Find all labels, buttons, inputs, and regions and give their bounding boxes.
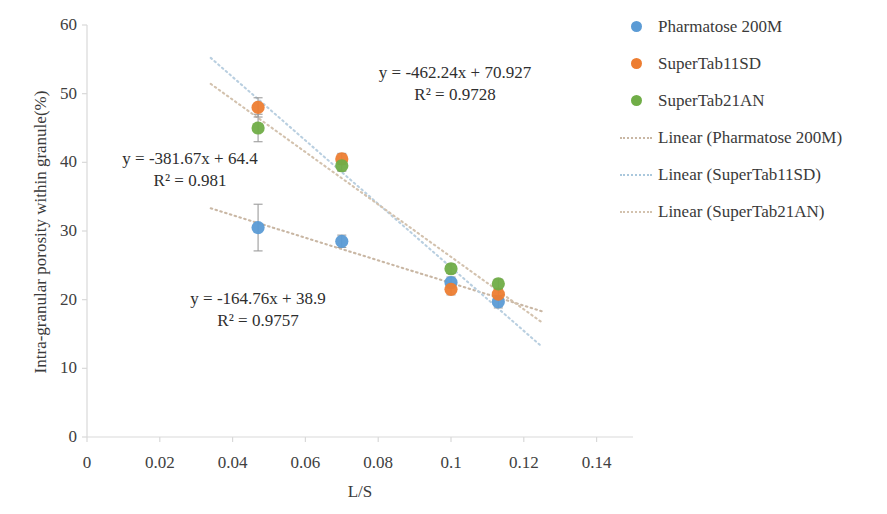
legend-key (618, 137, 654, 139)
eq-pharmatose200m: y = -164.76x + 38.9R² = 0.9757 (190, 288, 325, 333)
data-point-supertab21an[interactable] (335, 159, 348, 172)
legend-marker-icon (631, 21, 642, 32)
data-point-supertab11sd[interactable] (444, 283, 457, 296)
y-axis-tick-label: 0 (19, 427, 77, 447)
legend-item-label: Pharmatose 200M (654, 17, 782, 37)
y-axis-tick-label: 60 (19, 15, 77, 35)
data-point-supertab21an[interactable] (492, 277, 505, 290)
eq-supertab11sd-equation: y = -462.24x + 70.927 (379, 62, 531, 84)
chart-legend: Pharmatose 200MSuperTab11SDSuperTab21ANL… (618, 8, 883, 230)
legend-marker-icon (631, 58, 642, 69)
x-axis-tick-label: 0.14 (582, 453, 612, 473)
x-axis-tick-label: 0.06 (291, 453, 321, 473)
legend-key (618, 95, 654, 106)
data-point-pharmatose-200m[interactable] (335, 235, 348, 248)
legend-key (618, 58, 654, 69)
y-axis-tick-label: 40 (19, 152, 77, 172)
legend-item-label: SuperTab21AN (654, 91, 764, 111)
legend-item[interactable]: Linear (Pharmatose 200M) (618, 119, 883, 156)
legend-key (618, 21, 654, 32)
y-axis-tick-label: 50 (19, 84, 77, 104)
data-point-supertab21an[interactable] (444, 262, 457, 275)
x-axis-title: L/S (87, 482, 633, 502)
x-axis-tick-label: 0.08 (363, 453, 393, 473)
eq-supertab11sd-r2: R² = 0.9728 (379, 84, 531, 106)
legend-key (618, 174, 654, 176)
y-axis-tick-label: 10 (19, 358, 77, 378)
data-point-supertab21an[interactable] (251, 121, 264, 134)
legend-item-label: Linear (SuperTab11SD) (654, 165, 821, 185)
eq-pharmatose200m-equation: y = -164.76x + 38.9 (190, 288, 325, 310)
legend-item[interactable]: SuperTab11SD (618, 45, 883, 82)
x-axis-tick-label: 0.12 (509, 453, 539, 473)
legend-dashed-line-icon (620, 137, 652, 139)
eq-supertab21an: y = -381.67x + 64.4R² = 0.981 (122, 148, 257, 193)
eq-supertab21an-r2: R² = 0.981 (122, 170, 257, 192)
legend-item[interactable]: Linear (SuperTab21AN) (618, 193, 883, 230)
x-axis-tick-label: 0.1 (440, 453, 461, 473)
x-axis-tick-label: 0.04 (218, 453, 248, 473)
eq-supertab11sd: y = -462.24x + 70.927R² = 0.9728 (379, 62, 531, 107)
legend-item[interactable]: Pharmatose 200M (618, 8, 883, 45)
legend-dashed-line-icon (620, 174, 652, 176)
legend-item[interactable]: Linear (SuperTab11SD) (618, 156, 883, 193)
legend-item-label: Linear (Pharmatose 200M) (654, 128, 842, 148)
x-axis-tick-label: 0 (83, 453, 92, 473)
legend-item[interactable]: SuperTab21AN (618, 82, 883, 119)
data-point-supertab11sd[interactable] (251, 101, 264, 114)
legend-dashed-line-icon (620, 211, 652, 213)
eq-pharmatose200m-r2: R² = 0.9757 (190, 310, 325, 332)
eq-supertab21an-equation: y = -381.67x + 64.4 (122, 148, 257, 170)
y-axis-tick-label: 20 (19, 290, 77, 310)
y-axis-tick-label: 30 (19, 221, 77, 241)
scatter-chart: Intra-granular porosity within granule(%… (0, 0, 887, 514)
x-axis-tick-label: 0.02 (145, 453, 175, 473)
legend-marker-icon (631, 95, 642, 106)
trendline-supertab21an (211, 84, 542, 322)
legend-item-label: Linear (SuperTab21AN) (654, 202, 824, 222)
legend-item-label: SuperTab11SD (654, 54, 761, 74)
data-point-pharmatose-200m[interactable] (251, 221, 264, 234)
legend-key (618, 211, 654, 213)
